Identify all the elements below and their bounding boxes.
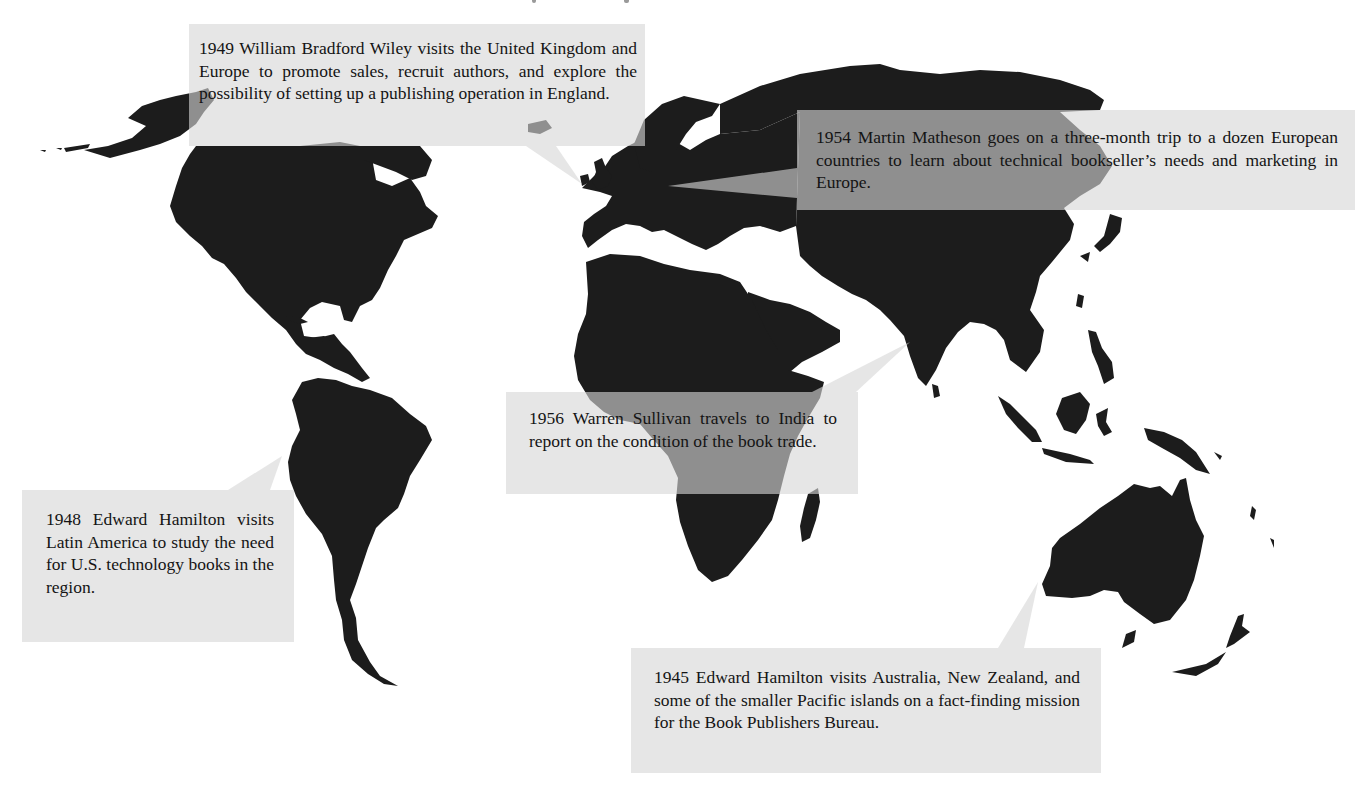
landmass-uk <box>580 158 612 190</box>
callout-1956-india: 1956 Warren Sullivan travels to India to… <box>506 392 858 494</box>
landmass-new-guinea <box>1144 428 1210 474</box>
landmass-sri-lanka <box>932 384 940 398</box>
callout-1954-europe: 1954 Martin Matheson goes on a three-mon… <box>797 110 1355 210</box>
callout-text: 1948 Edward Hamilton visits Latin Americ… <box>46 508 274 598</box>
callout-1949-uk-europe: 1949 William Bradford Wiley visits the U… <box>189 24 645 146</box>
landmass-aleutians <box>40 144 90 152</box>
callout-pointer-1949 <box>526 146 582 184</box>
callout-pointer-1956 <box>812 342 910 392</box>
landmass-new-zealand <box>1172 614 1250 676</box>
callout-text: 1956 Warren Sullivan travels to India to… <box>529 407 837 452</box>
callout-text: 1954 Martin Matheson goes on a three-mon… <box>816 126 1338 194</box>
landmass-borneo <box>1056 392 1090 434</box>
landmass-sumatra <box>998 396 1042 442</box>
landmass-sulawesi <box>1096 408 1112 436</box>
callout-1945-australia: 1945 Edward Hamilton visits Australia, N… <box>631 648 1101 773</box>
callout-1948-latin-america: 1948 Edward Hamilton visits Latin Americ… <box>22 490 294 642</box>
landmass-madagascar <box>800 488 820 542</box>
landmass-japan <box>1080 214 1122 262</box>
landmass-south-america <box>288 378 432 686</box>
landmass-pacific-islands <box>1214 452 1274 548</box>
landmass-north-america <box>170 142 438 382</box>
callout-pointer-1948 <box>228 456 282 490</box>
landmass-australia <box>1042 478 1204 624</box>
callout-text: 1945 Edward Hamilton visits Australia, N… <box>654 666 1080 734</box>
landmass-java <box>1042 448 1094 464</box>
landmass-philippines <box>1076 294 1114 384</box>
landmass-tasmania <box>1122 630 1136 648</box>
callout-pointer-1945 <box>998 582 1038 648</box>
callout-text: 1949 William Bradford Wiley visits the U… <box>199 37 637 105</box>
